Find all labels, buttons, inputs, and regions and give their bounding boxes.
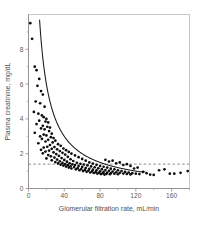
data-point: [50, 147, 53, 150]
data-point: [43, 105, 46, 108]
x-tick-label: 120: [130, 192, 141, 199]
data-point: [129, 165, 132, 168]
data-point: [93, 166, 96, 169]
data-point: [100, 173, 103, 176]
data-point: [65, 165, 68, 168]
data-point: [50, 155, 53, 158]
data-point: [126, 173, 129, 176]
data-point: [79, 162, 82, 165]
x-tick-label: 80: [96, 192, 104, 199]
data-point: [73, 166, 76, 169]
data-point: [103, 173, 106, 176]
data-point: [45, 118, 48, 121]
data-point: [65, 149, 68, 152]
data-point: [95, 163, 98, 166]
data-point: [40, 90, 43, 93]
data-point: [44, 150, 47, 153]
data-point: [109, 167, 112, 170]
data-point: [64, 153, 67, 156]
data-point: [67, 155, 70, 158]
y-tick-label: 4: [20, 115, 24, 122]
data-point: [52, 137, 55, 140]
data-point: [58, 160, 61, 163]
data-point: [40, 149, 43, 152]
data-point: [186, 170, 189, 173]
data-point: [37, 142, 40, 145]
data-point: [54, 161, 57, 164]
data-point: [117, 169, 120, 172]
y-axis-title: Plasma creatinine, mg/dL: [4, 62, 12, 140]
data-point: [113, 172, 116, 175]
data-point: [58, 154, 61, 157]
data-point: [117, 173, 120, 176]
data-point: [47, 154, 50, 157]
data-point: [57, 143, 60, 146]
data-point: [173, 172, 176, 175]
x-tick-label: 160: [166, 192, 177, 199]
data-point: [96, 172, 99, 175]
data-point: [41, 138, 44, 141]
data-point: [29, 22, 32, 25]
data-point: [42, 133, 45, 136]
data-point: [47, 121, 50, 124]
data-point: [59, 163, 62, 166]
data-point: [168, 172, 171, 175]
data-point: [41, 152, 44, 155]
data-point: [92, 162, 95, 165]
data-point: [70, 167, 73, 170]
data-point: [48, 149, 51, 152]
scatter-plot-figure: 02468 04080120160 Glomerular filtration …: [0, 0, 200, 225]
data-point: [111, 159, 114, 162]
data-point: [99, 165, 102, 168]
data-point: [82, 170, 85, 173]
data-point: [122, 164, 125, 167]
data-point: [134, 172, 137, 175]
data-point: [81, 158, 84, 161]
data-point: [62, 164, 65, 167]
data-point: [145, 172, 148, 175]
data-point: [179, 171, 182, 174]
data-point: [90, 165, 93, 168]
data-point: [47, 138, 50, 141]
y-axis: 02468: [20, 15, 29, 192]
data-point: [88, 161, 91, 164]
data-point: [58, 150, 61, 153]
data-point: [118, 161, 121, 164]
data-point: [75, 161, 78, 164]
data-point: [67, 151, 70, 154]
data-point: [40, 127, 43, 130]
data-point: [54, 139, 57, 142]
data-point: [138, 173, 141, 176]
data-point: [49, 144, 52, 147]
data-point: [69, 158, 72, 161]
data-point: [31, 38, 34, 41]
data-point: [109, 173, 112, 176]
data-point: [57, 162, 60, 165]
data-point: [113, 168, 116, 171]
data-point: [38, 78, 41, 81]
data-point: [63, 159, 66, 162]
data-point: [83, 163, 86, 166]
x-axis-title: Glomerular filtration rate, mL/min: [59, 205, 159, 212]
data-point: [48, 130, 51, 133]
data-point: [108, 160, 111, 163]
data-point: [86, 164, 89, 167]
y-tick-label: 6: [20, 81, 24, 88]
data-point: [67, 166, 70, 169]
x-tick-label: 40: [61, 192, 69, 199]
data-point: [56, 148, 59, 151]
data-point: [133, 167, 136, 170]
data-point: [78, 169, 81, 172]
data-point: [38, 119, 41, 122]
data-point: [66, 160, 69, 163]
data-point: [43, 128, 46, 131]
data-point: [149, 173, 152, 176]
data-point: [41, 93, 44, 96]
data-point: [126, 163, 129, 166]
data-point-series: [29, 22, 189, 176]
data-point: [53, 146, 56, 149]
data-point: [102, 165, 105, 168]
data-point: [35, 123, 38, 126]
data-point: [75, 168, 78, 171]
data-point: [104, 158, 107, 161]
